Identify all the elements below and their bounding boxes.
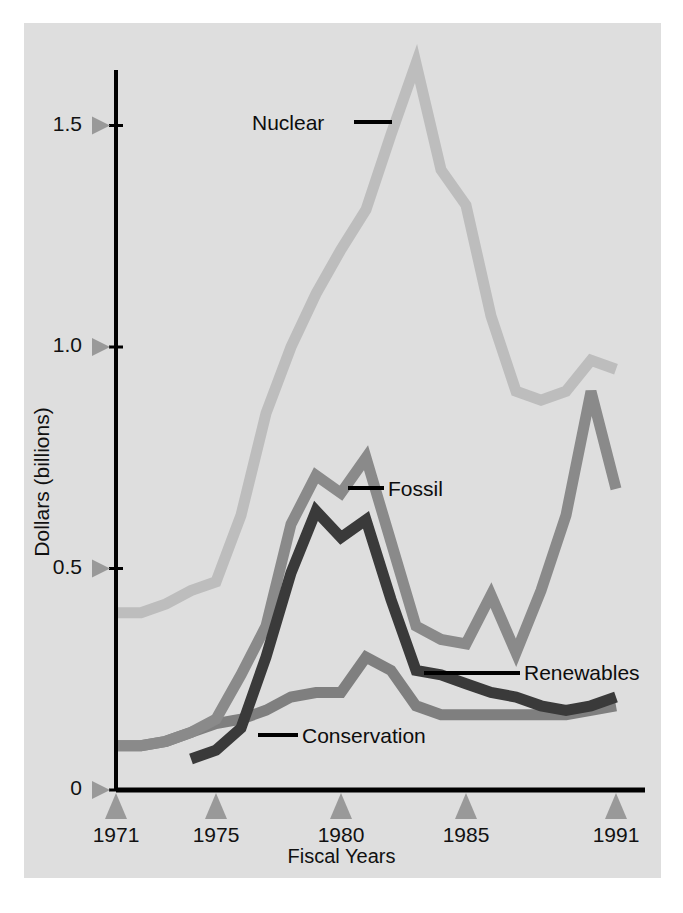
y-axis-title: Dollars (billions) [30,382,54,582]
x-tick-label-3: 1985 [416,823,516,847]
x-tick-arrow-0 [105,793,127,819]
y-tick-arrow-3 [92,117,110,135]
chart-canvas [0,0,683,913]
y-tick-label-0: 0 [10,776,82,800]
y-tick-arrow-0 [92,781,110,799]
series-label-conservation: Conservation [302,724,426,748]
y-tick-arrow-1 [92,560,110,578]
y-tick-label-2: 1.0 [10,333,82,357]
x-tick-label-1: 1975 [166,823,266,847]
series-line-renewables [116,391,616,745]
series-label-renewables: Renewables [524,661,640,685]
x-tick-arrow-4 [605,793,627,819]
y-tick-label-3: 1.5 [10,112,82,136]
series-layer [116,64,616,760]
annotation-leader-layer [258,122,520,735]
y-tick-label-1: 0.5 [10,555,82,579]
x-axis-title: Fiscal Years [0,845,683,868]
y-tick-arrow-2 [92,338,110,356]
x-tick-label-4: 1991 [566,823,666,847]
series-label-nuclear: Nuclear [252,111,324,135]
x-tick-arrow-2 [330,793,352,819]
x-tick-arrow-3 [455,793,477,819]
chart-figure: Dollars (billions) Fiscal Years 00.51.01… [0,0,683,913]
series-label-fossil: Fossil [388,477,443,501]
x-tick-arrow-1 [205,793,227,819]
x-tick-label-0: 1971 [66,823,166,847]
x-tick-label-2: 1980 [291,823,391,847]
